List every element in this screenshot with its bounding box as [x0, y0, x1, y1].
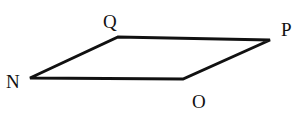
vertex-label-p: P	[281, 19, 292, 40]
vertex-label-o: O	[192, 91, 206, 112]
vertex-label-q: Q	[103, 11, 117, 32]
diagram-canvas: N Q P O	[0, 0, 304, 116]
parallelogram-diagram: N Q P O	[0, 0, 304, 116]
vertex-label-n: N	[6, 71, 20, 92]
parallelogram-nqpo	[30, 37, 270, 79]
